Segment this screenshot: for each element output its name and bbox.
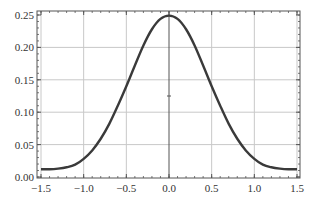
chart: −1.5−1.0−0.50.00.51.01.5 0.000.050.100.1… [0, 0, 316, 203]
x-tick-label: 0.5 [205, 182, 219, 194]
x-tick-label: −1.0 [74, 182, 94, 194]
x-tick-label: 1.5 [290, 182, 304, 194]
x-tick-label: −0.5 [116, 182, 136, 194]
x-tick-label: −1.5 [31, 182, 51, 194]
y-tick-labels: 0.000.050.100.150.200.25 [15, 9, 35, 183]
x-tick-labels: −1.5−1.0−0.50.00.51.01.5 [31, 182, 304, 194]
y-tick-label: 0.05 [15, 139, 35, 151]
y-tick-label: 0.25 [15, 9, 35, 21]
y-tick-label: 0.10 [15, 106, 35, 118]
x-tick-label: 0.0 [162, 182, 176, 194]
y-tick-label: 0.15 [15, 74, 35, 86]
x-tick-label: 1.0 [247, 182, 261, 194]
y-tick-label: 0.00 [15, 171, 35, 183]
y-tick-label: 0.20 [15, 41, 35, 53]
